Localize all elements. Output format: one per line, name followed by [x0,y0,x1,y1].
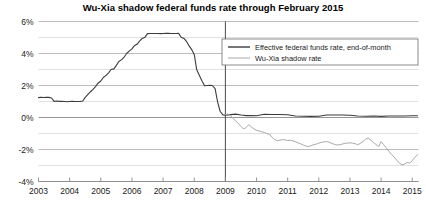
x-tick-label: 2011 [279,186,298,196]
chart-legend: Effective federal funds rate, end-of-mon… [222,39,418,65]
x-tick-label: 2005 [91,186,110,196]
y-tick-label: 2% [21,81,34,91]
x-axis-labels: 2003200420052006200720082009201020112012… [29,178,422,196]
legend-label: Effective federal funds rate, end-of-mon… [255,43,391,52]
x-tick-label: 2004 [60,186,79,196]
x-tick-label: 2008 [185,186,204,196]
y-tick-label: 6% [21,17,34,27]
x-tick-label: 2012 [309,186,328,196]
y-tick-label: 4% [21,49,34,59]
x-tick-label: 2014 [372,186,391,196]
x-tick-label: 2007 [154,186,173,196]
chart-container: Wu-Xia shadow federal funds rate through… [0,0,426,209]
x-tick-label: 2003 [29,186,48,196]
x-tick-label: 2013 [341,186,360,196]
series-line-shadow-rate [225,114,417,165]
x-tick-label: 2009 [216,186,235,196]
x-tick-label: 2010 [247,186,266,196]
x-tick-label: 2015 [403,186,422,196]
legend-label: Wu-Xia shadow rate [255,54,321,63]
y-tick-label: -2% [18,145,34,155]
y-axis-labels: 6%4%2%0%-2%-4% [18,17,34,187]
x-tick-label: 2006 [122,186,141,196]
y-tick-label: 0% [21,113,34,123]
line-chart-plot: 6%4%2%0%-2%-4%20032004200520062007200820… [0,0,426,209]
